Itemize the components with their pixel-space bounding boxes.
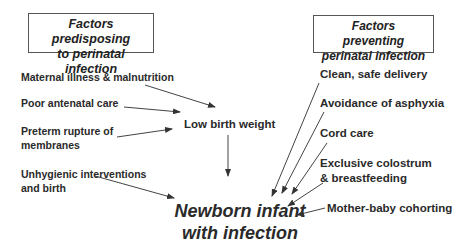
arrow-antenatal-to-lbw	[124, 107, 180, 112]
arrow-asphyxia-to-outcome	[282, 112, 324, 193]
arrow-colostrum-to-outcome	[288, 183, 323, 206]
arrow-cord-care-to-outcome	[292, 143, 327, 194]
arrow-unhygienic-to-outcome	[95, 176, 174, 198]
arrow-clean-delivery-to-outcome	[272, 83, 319, 196]
arrow-maternal-to-lbw	[145, 85, 215, 107]
arrow-cohorting-to-outcome	[297, 208, 325, 215]
arrows-layer	[0, 0, 468, 250]
arrow-preterm-to-lbw	[117, 129, 172, 137]
